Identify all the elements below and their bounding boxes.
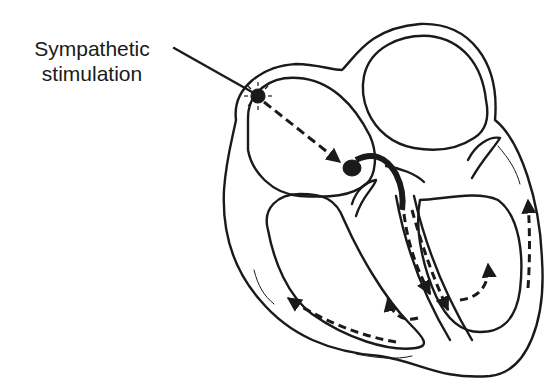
internodal-pathway-arrows <box>264 102 340 162</box>
right-atrium <box>248 78 375 197</box>
purkinje-arrows-right-wall <box>528 200 530 288</box>
mitral-leaflet <box>468 138 500 178</box>
left-atrium <box>363 36 487 150</box>
av-node <box>343 160 361 176</box>
septum-right <box>414 196 472 340</box>
outer-heart-wall <box>224 24 543 377</box>
heart-diagram <box>0 0 556 392</box>
label-leader-line <box>174 48 252 92</box>
wall-detail-left <box>254 270 274 304</box>
tricuspid-leaflet <box>352 180 376 216</box>
purkinje-arrows-septum-up <box>460 264 488 300</box>
right-bundle-branch-arrows <box>412 210 448 310</box>
